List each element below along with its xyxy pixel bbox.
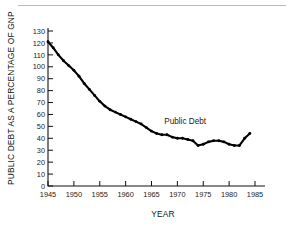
x-tick-label: 1985 <box>247 190 263 199</box>
y-axis-title: PUBLIC DEBT AS A PERCENTAGE OF GNP <box>6 11 16 185</box>
x-axis-title: YEAR <box>151 209 174 219</box>
data-point <box>98 100 101 103</box>
x-tick-label: 1960 <box>117 190 133 199</box>
data-point <box>124 115 127 118</box>
x-tick-label: 1975 <box>195 190 211 199</box>
y-tick-label: 70 <box>37 98 45 107</box>
y-tick-label: 130 <box>33 27 45 36</box>
data-point <box>202 143 205 146</box>
data-point <box>47 40 50 43</box>
data-point <box>176 137 179 140</box>
data-point <box>67 64 70 67</box>
data-point <box>171 136 174 139</box>
y-tick-label: 100 <box>33 62 45 71</box>
data-point <box>103 105 106 108</box>
series-annotation-group: Public Debt <box>164 117 207 126</box>
data-point <box>248 132 251 135</box>
data-point <box>191 139 194 142</box>
data-point <box>238 144 241 147</box>
data-point <box>212 139 215 142</box>
data-point <box>140 123 143 126</box>
x-tick-label: 1970 <box>169 190 185 199</box>
y-axis-tick-labels: 0102030405060708090100110120130 <box>33 27 45 191</box>
data-point <box>109 108 112 111</box>
data-point <box>160 133 163 136</box>
data-point <box>207 140 210 143</box>
data-point <box>93 94 96 97</box>
data-point <box>233 144 236 147</box>
chart-figure: 0102030405060708090100110120130 19451950… <box>0 0 290 230</box>
x-tick-label: 1965 <box>143 190 159 199</box>
data-point <box>197 144 200 147</box>
data-point <box>223 140 226 143</box>
y-tick-label: 20 <box>37 158 45 167</box>
y-tick-label: 120 <box>33 39 45 48</box>
data-point <box>83 82 86 85</box>
x-tick-label: 1980 <box>221 190 237 199</box>
chart-axes <box>48 28 265 186</box>
x-tick-label: 1950 <box>66 190 82 199</box>
public-debt-markers <box>47 40 252 147</box>
y-tick-label: 10 <box>37 170 45 179</box>
x-tick-label: 1955 <box>92 190 108 199</box>
data-point <box>166 133 169 136</box>
data-point <box>228 143 231 146</box>
y-axis-tick-group <box>48 31 53 186</box>
y-tick-label: 50 <box>37 122 45 131</box>
data-point <box>150 130 153 133</box>
y-tick-label: 110 <box>33 51 45 60</box>
data-point <box>72 69 75 72</box>
y-tick-label: 30 <box>37 146 45 155</box>
data-point <box>88 88 91 91</box>
data-point <box>181 137 184 140</box>
y-tick-label: 90 <box>37 74 45 83</box>
data-point <box>186 138 189 141</box>
data-point <box>114 111 117 114</box>
x-tick-label: 1945 <box>40 190 56 199</box>
series-annotation-label: Public Debt <box>164 117 207 126</box>
data-point <box>145 126 148 129</box>
data-point <box>135 120 138 123</box>
x-axis-tick-group <box>48 181 255 186</box>
y-tick-label: 60 <box>37 110 45 119</box>
y-tick-label: 40 <box>37 134 45 143</box>
data-point <box>62 59 65 62</box>
line-chart-plot: 0102030405060708090100110120130 19451950… <box>0 0 290 230</box>
data-point <box>155 132 158 135</box>
data-point <box>119 113 122 116</box>
public-debt-line <box>48 42 250 146</box>
x-axis-tick-labels: 194519501955196019651970197519801985 <box>40 190 263 199</box>
data-point <box>243 137 246 140</box>
data-point <box>129 118 132 121</box>
y-tick-label: 80 <box>37 86 45 95</box>
data-point <box>78 75 81 78</box>
data-point <box>52 46 55 49</box>
data-point <box>217 139 220 142</box>
data-point <box>57 53 60 56</box>
